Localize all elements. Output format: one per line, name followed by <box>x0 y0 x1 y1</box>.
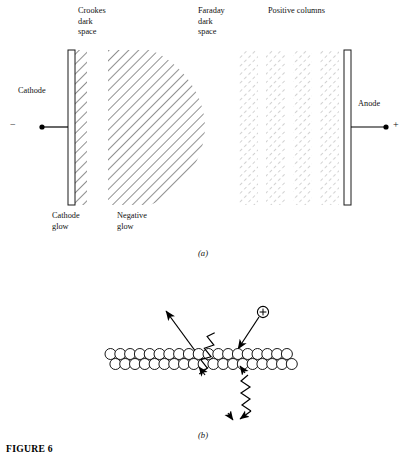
positive-column-band <box>239 50 258 205</box>
panel-a-letter: (a) <box>198 248 208 258</box>
positive-columns-region <box>239 50 339 205</box>
panel-a-diagram <box>0 0 410 290</box>
cathode-glow-region <box>75 50 87 205</box>
panel-b-diagram <box>0 295 410 435</box>
positive-column-band <box>266 50 285 205</box>
label-minus-terminal: − <box>10 120 16 131</box>
label-anode: Anode <box>358 99 380 110</box>
figure-caption: FIGURE 6 <box>6 443 53 454</box>
label-crookes-dark-space: Crookes dark space <box>78 6 106 38</box>
positive-column-band <box>320 50 339 205</box>
figure-6-container: Crookes dark space Faraday dark space Po… <box>0 0 410 461</box>
label-cathode-glow: Cathode glow <box>52 211 80 232</box>
cathode-electrode <box>68 50 75 205</box>
label-cathode: Cathode <box>18 86 46 97</box>
panel-b-letter: (b) <box>198 430 208 440</box>
anode-electrode <box>344 50 351 205</box>
positive-column-band <box>293 50 312 205</box>
zigzag-photon-right <box>240 366 251 419</box>
incoming-ion-arrow <box>238 317 259 349</box>
label-faraday-dark-space: Faraday dark space <box>198 6 225 38</box>
ion-plus-circle-icon <box>257 306 268 317</box>
label-positive-columns: Positive columns <box>268 6 325 17</box>
ejected-particle-arrow <box>166 311 196 352</box>
label-negative-glow: Negative glow <box>117 211 147 232</box>
negative-glow-region <box>108 50 205 205</box>
label-plus-terminal: + <box>393 120 399 131</box>
anode-lead <box>351 124 389 129</box>
cathode-lead <box>39 124 68 129</box>
